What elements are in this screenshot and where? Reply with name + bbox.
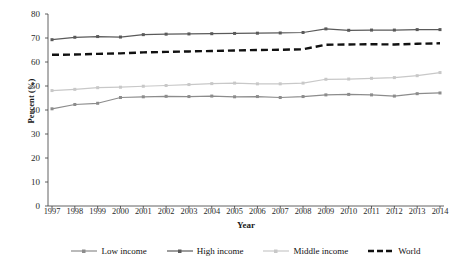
x-tick-label: 2012 bbox=[386, 207, 403, 217]
legend-swatch bbox=[368, 247, 394, 255]
data-point bbox=[73, 36, 76, 39]
data-point bbox=[439, 71, 442, 74]
series-low-income bbox=[51, 91, 442, 110]
data-point bbox=[256, 32, 259, 35]
data-point bbox=[256, 95, 259, 98]
x-tick-label: 2005 bbox=[226, 207, 243, 217]
data-point bbox=[187, 83, 190, 86]
data-point bbox=[187, 32, 190, 35]
data-point bbox=[119, 96, 122, 99]
x-tick-label: 2013 bbox=[409, 207, 426, 217]
data-point bbox=[142, 85, 145, 88]
series-line bbox=[52, 73, 440, 91]
data-point bbox=[119, 86, 122, 89]
legend-item[interactable]: High income bbox=[167, 246, 244, 256]
x-tick-label: 2007 bbox=[272, 207, 289, 217]
x-tick-label: 1998 bbox=[66, 207, 83, 217]
y-tick-label: 40 bbox=[31, 106, 40, 115]
data-point bbox=[96, 86, 99, 89]
data-point bbox=[233, 82, 236, 85]
y-tick-label: 30 bbox=[31, 130, 40, 139]
data-point bbox=[347, 78, 350, 81]
legend-label: World bbox=[398, 246, 420, 256]
x-tick-label: 2004 bbox=[203, 207, 220, 217]
data-point bbox=[347, 93, 350, 96]
data-point bbox=[302, 95, 305, 98]
data-point bbox=[73, 103, 76, 106]
y-tick-label: 70 bbox=[31, 34, 40, 43]
x-tick-label: 2011 bbox=[363, 207, 379, 217]
series-high-income bbox=[51, 27, 442, 41]
data-point bbox=[324, 93, 327, 96]
legend-swatch bbox=[71, 247, 97, 255]
plot-area bbox=[48, 14, 444, 206]
data-point bbox=[96, 35, 99, 38]
legend-item[interactable]: Middle income bbox=[263, 246, 348, 256]
series-middle-income bbox=[51, 71, 442, 92]
series-line bbox=[52, 43, 440, 55]
legend-item[interactable]: Low income bbox=[71, 246, 146, 256]
data-point bbox=[233, 95, 236, 98]
data-point bbox=[210, 95, 213, 98]
data-point bbox=[51, 38, 54, 41]
data-point bbox=[370, 93, 373, 96]
data-point bbox=[370, 29, 373, 32]
data-point bbox=[416, 92, 419, 95]
legend-label: Low income bbox=[101, 246, 146, 256]
data-point bbox=[279, 82, 282, 85]
y-tick-label: 0 bbox=[36, 202, 41, 211]
data-point bbox=[324, 27, 327, 30]
data-point bbox=[370, 77, 373, 80]
legend-swatch bbox=[167, 247, 193, 255]
plot-svg bbox=[48, 14, 444, 206]
x-tick-label: 1999 bbox=[89, 207, 106, 217]
data-point bbox=[439, 28, 442, 31]
data-point bbox=[416, 74, 419, 77]
data-point bbox=[393, 76, 396, 79]
data-point bbox=[302, 31, 305, 34]
data-point bbox=[256, 82, 259, 85]
y-tick-label: 10 bbox=[31, 178, 40, 187]
data-point bbox=[210, 32, 213, 35]
x-axis-title: Year bbox=[48, 220, 444, 230]
data-point bbox=[347, 29, 350, 32]
data-point bbox=[187, 95, 190, 98]
data-point bbox=[393, 29, 396, 32]
y-tick-label: 60 bbox=[31, 58, 40, 67]
data-point bbox=[393, 95, 396, 98]
x-tick-label: 2006 bbox=[249, 207, 266, 217]
x-tick-label: 2009 bbox=[318, 207, 335, 217]
data-point bbox=[142, 95, 145, 98]
data-point bbox=[233, 32, 236, 35]
series-line bbox=[52, 29, 440, 40]
data-point bbox=[119, 36, 122, 39]
x-axis: 1997199819992000200120022003200420052006… bbox=[48, 207, 444, 221]
data-point bbox=[302, 82, 305, 85]
data-point bbox=[142, 33, 145, 36]
x-tick-label: 2000 bbox=[112, 207, 129, 217]
data-point bbox=[279, 96, 282, 99]
data-point bbox=[73, 88, 76, 91]
x-tick-label: 2010 bbox=[340, 207, 357, 217]
y-axis: 80706050403020100 bbox=[0, 14, 44, 206]
y-tick-label: 50 bbox=[31, 82, 40, 91]
data-point bbox=[165, 95, 168, 98]
data-point bbox=[165, 84, 168, 87]
y-tick-label: 80 bbox=[31, 10, 40, 19]
data-point bbox=[279, 31, 282, 34]
data-point bbox=[416, 28, 419, 31]
line-chart: Percent (%) 80706050403020100 1997199819… bbox=[0, 0, 450, 268]
legend-item[interactable]: World bbox=[368, 246, 420, 256]
data-point bbox=[51, 107, 54, 110]
x-tick-label: 2001 bbox=[135, 207, 152, 217]
chart-legend: Low incomeHigh incomeMiddle incomeWorld bbox=[48, 241, 444, 261]
x-tick-label: 2002 bbox=[158, 207, 175, 217]
data-point bbox=[51, 89, 54, 92]
x-tick-label: 1997 bbox=[44, 207, 61, 217]
x-tick-label: 2014 bbox=[432, 207, 449, 217]
data-point bbox=[439, 91, 442, 94]
data-point bbox=[324, 78, 327, 81]
data-point bbox=[165, 33, 168, 36]
series-line bbox=[52, 93, 440, 109]
series-world bbox=[52, 43, 440, 55]
